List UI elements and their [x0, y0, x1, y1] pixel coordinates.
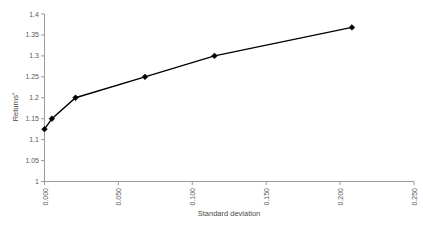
y-axis-title: Returns*: [11, 92, 20, 121]
x-tick-label: 0.250: [411, 188, 418, 206]
y-tick-label: 1.3: [29, 52, 39, 59]
y-tick-label: 1: [35, 178, 39, 185]
x-tick-label-group: 0.050: [115, 188, 122, 206]
x-tick-label: 0.200: [337, 188, 344, 206]
x-tick-label: 0.000: [42, 188, 49, 206]
chart-background: [0, 0, 423, 225]
x-tick-label-group: 0.150: [263, 188, 270, 206]
y-tick-label: 1.25: [25, 73, 39, 80]
x-tick-label: 0.050: [115, 188, 122, 206]
y-tick-label: 1.1: [29, 136, 39, 143]
y-tick-label: 1.4: [29, 11, 39, 18]
y-axis-title-text: Returns: [11, 95, 20, 122]
x-tick-label-group: 0.250: [411, 188, 418, 206]
x-tick-label-group: 0.200: [337, 188, 344, 206]
line-chart: 11.051.11.151.21.251.31.351.4 0.0000.050…: [0, 0, 423, 225]
y-axis-title-group: Returns*: [11, 92, 20, 121]
x-tick-label-group: 0.100: [189, 188, 196, 206]
y-tick-label: 1.2: [29, 94, 39, 101]
x-tick-label: 0.150: [263, 188, 270, 206]
y-tick-label: 1.05: [25, 157, 39, 164]
x-tick-label-group: 0.000: [42, 188, 49, 206]
x-axis-title: Standard deviation: [198, 209, 261, 218]
y-tick-label: 1.15: [25, 115, 39, 122]
chart-container: 11.051.11.151.21.251.31.351.4 0.0000.050…: [0, 0, 423, 225]
x-tick-label: 0.100: [189, 188, 196, 206]
y-tick-label: 1.35: [25, 31, 39, 38]
